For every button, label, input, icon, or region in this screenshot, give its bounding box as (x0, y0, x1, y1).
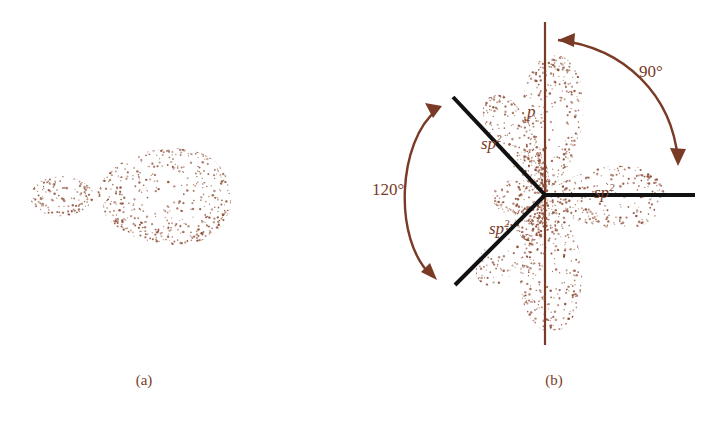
bond-lines (453, 97, 695, 285)
caption-panel-b: (b) (524, 372, 584, 389)
angle-label-90: 90° (639, 62, 663, 82)
sp2-right-back-lobe (486, 173, 550, 217)
angle-label-120: 120° (372, 180, 404, 200)
sp2-front-lobe (91, 134, 248, 248)
panel-a-sp2-orbital (21, 134, 248, 248)
angle-120-arrowhead-start (425, 103, 442, 118)
sp2-back-lobe (21, 169, 101, 221)
angle-90-arrowhead-start (558, 33, 575, 47)
angle-arc-120 (405, 103, 442, 280)
bond-line-lower-left (455, 195, 545, 285)
sp2-right-lobe (539, 154, 677, 228)
sp2-upper-left-lobe (475, 84, 553, 201)
orbital-hybridization-figure (0, 0, 713, 422)
angle-90-arrowhead-end (670, 148, 686, 166)
bond-line-upper-left (453, 97, 545, 195)
caption-panel-a: (a) (114, 372, 174, 389)
